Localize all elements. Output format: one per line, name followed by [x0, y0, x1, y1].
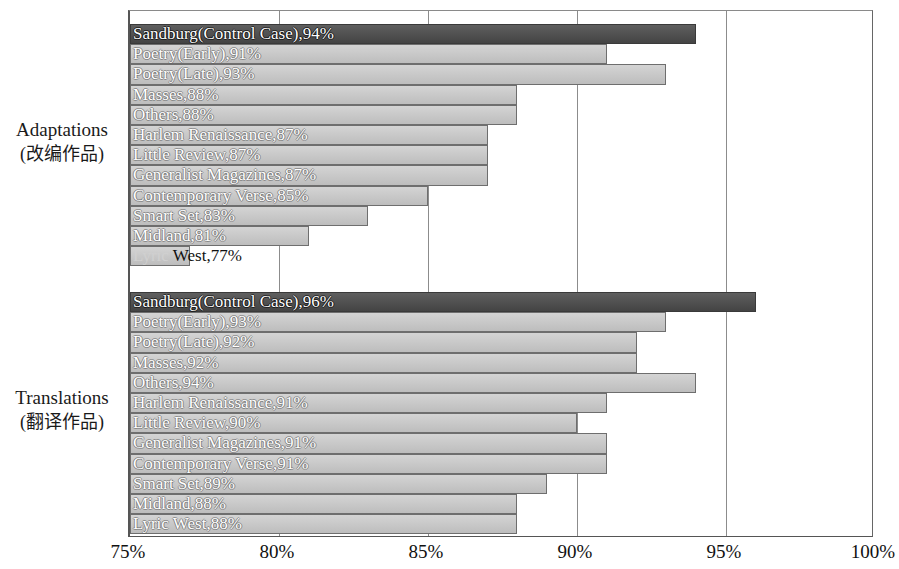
bar[interactable]: [130, 413, 577, 433]
bar[interactable]: [130, 125, 488, 145]
bar-row[interactable]: Little Review,90%: [130, 413, 872, 433]
plot-area: Sandburg(Control Case),94%Poetry(Early),…: [128, 10, 873, 537]
bar-group-adaptations: Sandburg(Control Case),94%Poetry(Early),…: [130, 24, 872, 266]
bar-row[interactable]: Poetry(Late),92%: [130, 332, 872, 352]
bar-row[interactable]: Little Review,87%: [130, 145, 872, 165]
bar-row[interactable]: Smart Set,83%: [130, 206, 872, 226]
group-label-adaptations-cn: (改编作品): [0, 142, 124, 166]
bar-row[interactable]: Contemporary Verse,91%: [130, 454, 872, 474]
bar[interactable]: [130, 433, 607, 453]
bar-row[interactable]: Harlem Renaissance,87%: [130, 125, 872, 145]
bar[interactable]: [130, 85, 517, 105]
bar-row[interactable]: Sandburg(Control Case),96%: [130, 292, 872, 312]
bar[interactable]: [130, 454, 607, 474]
bar[interactable]: [130, 514, 517, 534]
bar-row[interactable]: Sandburg(Control Case),94%: [130, 24, 872, 44]
bar-row[interactable]: Poetry(Early),93%: [130, 312, 872, 332]
bar-row[interactable]: Poetry(Late),93%: [130, 64, 872, 84]
x-tick-100: 100%: [828, 540, 899, 564]
bar[interactable]: [130, 186, 428, 206]
bar-row[interactable]: Others,88%: [130, 105, 872, 125]
bar-row[interactable]: Smart Set,89%: [130, 474, 872, 494]
bar[interactable]: [130, 24, 696, 44]
group-label-adaptations-en: Adaptations: [16, 119, 108, 140]
bar-row[interactable]: Masses,88%: [130, 85, 872, 105]
bar-group-translations: Sandburg(Control Case),96%Poetry(Early),…: [130, 292, 872, 534]
bar[interactable]: [130, 44, 607, 64]
bar[interactable]: [130, 494, 517, 514]
x-tick-85: 85%: [381, 540, 471, 564]
bar[interactable]: [130, 474, 547, 494]
bar[interactable]: [130, 226, 309, 246]
bar-row[interactable]: Lyric West,88%: [130, 514, 872, 534]
x-tick-90: 90%: [530, 540, 620, 564]
bar-row[interactable]: Generalist Magazines,91%: [130, 433, 872, 453]
group-label-adaptations: Adaptations (改编作品): [0, 118, 124, 166]
bar[interactable]: [130, 393, 607, 413]
bar[interactable]: [130, 292, 756, 312]
x-tick-95: 95%: [679, 540, 769, 564]
bar[interactable]: [130, 206, 368, 226]
bar[interactable]: [130, 353, 637, 373]
bar-row[interactable]: Lyric West,77%: [130, 246, 872, 266]
bar-row[interactable]: Harlem Renaissance,91%: [130, 393, 872, 413]
bar[interactable]: [130, 312, 666, 332]
group-label-translations-en: Translations: [15, 387, 108, 408]
horizontal-bar-chart: Adaptations (改编作品) Translations (翻译作品) S…: [0, 0, 899, 569]
bar[interactable]: [130, 145, 488, 165]
bar-row[interactable]: Midland,88%: [130, 494, 872, 514]
group-label-translations: Translations (翻译作品): [0, 386, 124, 434]
bar-row[interactable]: Masses,92%: [130, 353, 872, 373]
bar[interactable]: [130, 373, 696, 393]
group-label-translations-cn: (翻译作品): [0, 410, 124, 434]
bar[interactable]: [130, 165, 488, 185]
x-tick-80: 80%: [232, 540, 322, 564]
bar-row[interactable]: Poetry(Early),91%: [130, 44, 872, 64]
bar[interactable]: [130, 332, 637, 352]
bar-row[interactable]: Others,94%: [130, 373, 872, 393]
bar-row[interactable]: Generalist Magazines,87%: [130, 165, 872, 185]
bar-row[interactable]: Midland,81%: [130, 226, 872, 246]
bar[interactable]: [130, 246, 190, 266]
bar[interactable]: [130, 105, 517, 125]
x-tick-75: 75%: [83, 540, 173, 564]
bar-row[interactable]: Contemporary Verse,85%: [130, 186, 872, 206]
bar[interactable]: [130, 64, 666, 84]
